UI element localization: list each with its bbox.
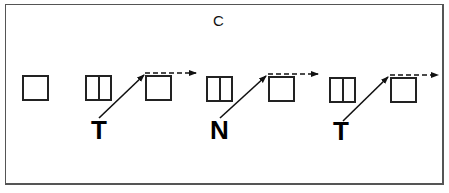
- solid-arrow-3: [343, 77, 388, 121]
- solid-arrow-2: [220, 76, 266, 118]
- arrows-layer: [0, 0, 449, 193]
- solid-arrow-1: [99, 75, 144, 118]
